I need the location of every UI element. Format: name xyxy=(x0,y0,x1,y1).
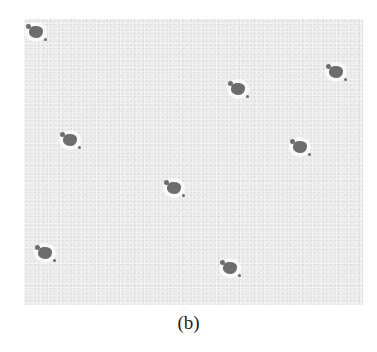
blob-8 xyxy=(223,262,237,274)
noisy-image-panel xyxy=(24,19,363,305)
figure: (b) xyxy=(0,0,377,352)
blob-6 xyxy=(167,182,181,194)
figure-caption: (b) xyxy=(0,312,377,334)
blob-1 xyxy=(29,26,43,38)
blob-4 xyxy=(63,134,77,146)
blob-3 xyxy=(329,66,343,78)
blob-2 xyxy=(231,83,245,95)
blob-7 xyxy=(38,247,52,259)
blob-5 xyxy=(293,141,307,153)
